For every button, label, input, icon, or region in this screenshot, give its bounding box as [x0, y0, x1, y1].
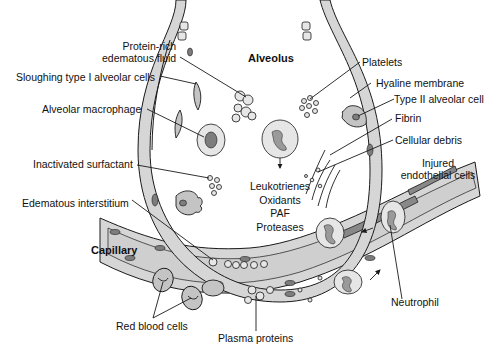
label-alveolar-macrophage: Alveolar macrophage	[42, 103, 141, 115]
label-capillary: Capillary	[91, 244, 137, 256]
label-cellular-debris: Cellular debris	[395, 134, 462, 146]
label-plasma-proteins: Plasma proteins	[218, 332, 293, 344]
label-platelets: Platelets	[362, 56, 402, 68]
label-fibrin: Fibrin	[395, 112, 421, 124]
label-sloughing-type1: Sloughing type I alveolar cells	[16, 71, 155, 83]
label-injured-endothelial: Injured endothelial cells	[385, 157, 491, 181]
label-hyaline-membrane: Hyaline membrane	[376, 77, 464, 89]
label-alveolus: Alveolus	[248, 52, 294, 64]
label-inactivated-surfactant: Inactivated surfactant	[33, 158, 133, 170]
label-edematous-interstitium: Edematous interstitium	[22, 197, 129, 209]
label-type2-alveolar-cell: Type II alveolar cell	[394, 93, 484, 105]
ards-diagram: .ol { stroke:#1a1a1a; stroke-width:1; fi…	[0, 0, 494, 357]
label-protein-rich-fluid: Protein-rich edematous fluid	[102, 40, 176, 64]
mediators-list: Leukotrienes Oxidants PAF Proteases	[240, 180, 320, 234]
label-red-blood-cells: Red blood cells	[116, 320, 188, 332]
label-neutrophil: Neutrophil	[391, 296, 439, 308]
